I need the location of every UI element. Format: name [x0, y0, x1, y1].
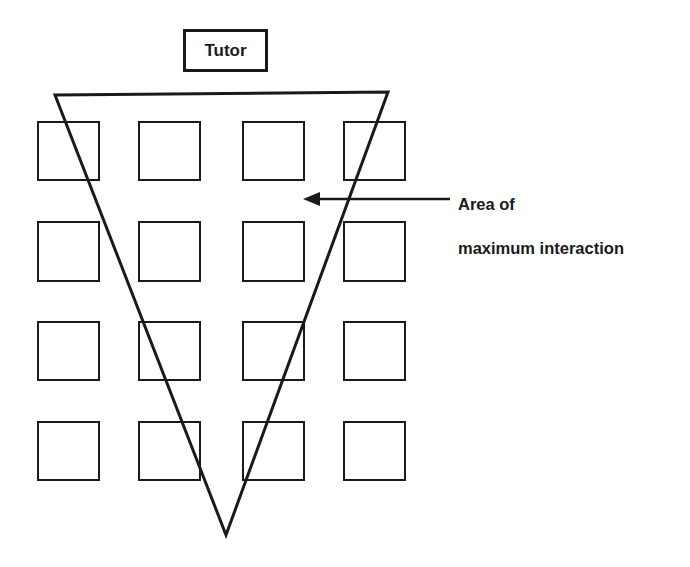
annotation-arrow: [303, 192, 450, 206]
seat-r2c3: [243, 222, 304, 281]
seat-r4c2: [139, 422, 200, 480]
diagram-canvas: Tutor Area of maximum interaction: [0, 0, 690, 567]
seat-r3c1: [38, 322, 99, 380]
annotation-label: Area of maximum interaction: [458, 172, 686, 282]
annotation-line-2: maximum interaction: [458, 238, 686, 260]
seat-r1c3: [243, 122, 304, 180]
tutor-label: Tutor: [204, 42, 246, 59]
seat-r2c2: [139, 222, 200, 281]
seat-r2c1: [38, 222, 99, 281]
seat-r3c4: [344, 322, 405, 380]
seat-grid: [38, 122, 405, 480]
seat-r4c4: [344, 422, 405, 480]
area-of-maximum-interaction-triangle: [55, 92, 388, 535]
diagram-vector-layer: [0, 0, 690, 567]
seat-r4c1: [38, 422, 99, 480]
annotation-line-1: Area of: [458, 194, 686, 216]
seat-r4c3: [243, 422, 304, 480]
tutor-box: Tutor: [183, 29, 268, 72]
seat-r1c2: [139, 122, 200, 180]
seat-r2c4: [344, 222, 405, 281]
